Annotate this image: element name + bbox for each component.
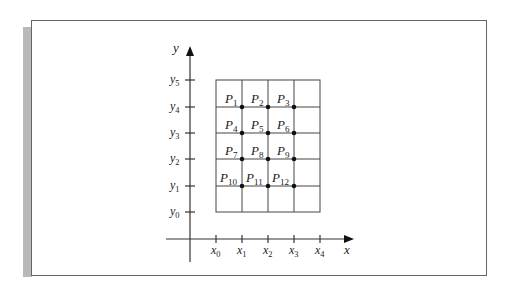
point-label: P8: [250, 143, 264, 160]
x-tick-label: x0: [210, 243, 221, 259]
point-label: P11: [245, 170, 263, 187]
point-label: P4: [224, 117, 238, 134]
x-tick-label: x4: [314, 243, 325, 259]
grid-point: [240, 157, 245, 162]
x-tick-label: x2: [262, 243, 273, 259]
grid-point: [292, 184, 297, 189]
y-axis-arrow-icon: [186, 46, 194, 56]
x-tick-label: x1: [236, 243, 247, 259]
grid-point: [266, 184, 271, 189]
grid-point: [292, 105, 297, 110]
point-label: P5: [250, 117, 264, 134]
grid-point: [240, 105, 245, 110]
y-tick-label: y0: [169, 204, 180, 220]
point-label: P9: [276, 143, 290, 160]
y-tick-label: y5: [169, 72, 180, 88]
y-axis-label: y: [171, 40, 179, 55]
grid-point: [240, 184, 245, 189]
point-label: P3: [276, 91, 290, 108]
point-label: P12: [271, 170, 290, 187]
grid-point: [266, 105, 271, 110]
point-label: P7: [224, 143, 238, 160]
y-tick-label: y3: [169, 125, 180, 141]
point-label: P2: [250, 91, 264, 108]
grid-point: [292, 131, 297, 136]
y-tick-label: y1: [169, 178, 180, 194]
grid-diagram: yxx0x1x2x3x4y0y1y2y3y4y5P1P2P3P4P5P6P7P8…: [0, 0, 515, 292]
point-label: P10: [219, 170, 238, 187]
x-axis-label: x: [343, 242, 350, 257]
x-tick-label: x3: [288, 243, 299, 259]
y-tick-label: y2: [169, 151, 180, 167]
labels: yxx0x1x2x3x4y0y1y2y3y4y5P1P2P3P4P5P6P7P8…: [169, 40, 350, 259]
point-label: P6: [276, 117, 290, 134]
grid-point: [266, 157, 271, 162]
grid-point: [266, 131, 271, 136]
grid-point: [292, 157, 297, 162]
grid-point: [240, 131, 245, 136]
point-label: P1: [224, 91, 238, 108]
y-tick-label: y4: [169, 99, 180, 115]
